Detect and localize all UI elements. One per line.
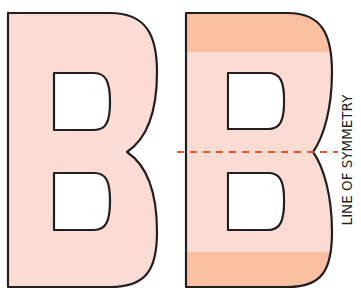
symmetry-label: LINE OF SYMMETRY: [339, 95, 355, 226]
symmetry-label-container: LINE OF SYMMETRY: [336, 40, 358, 280]
top-band: [180, 10, 340, 52]
symmetry-diagram: [0, 0, 361, 305]
left-letter-b: [8, 13, 157, 287]
